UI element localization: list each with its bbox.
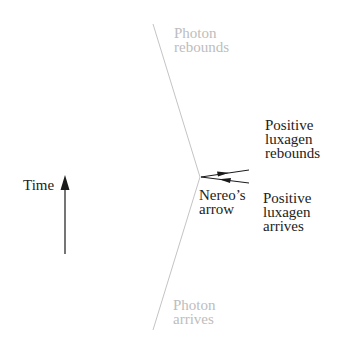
arrive-arrowhead-icon: [219, 178, 231, 183]
rebound-arrowhead-icon: [217, 172, 229, 177]
time-arrowhead-icon: [61, 175, 70, 190]
positive-luxagen-rebounds-label: Positive luxagen rebounds: [265, 118, 320, 160]
photon-arrives-label: Photon arrives: [173, 298, 216, 326]
nereos-arrow-label: Nereo’s arrow: [199, 188, 246, 216]
time-label: Time: [23, 178, 54, 192]
photon-worldline: [153, 24, 200, 330]
positive-luxagen-arrives-label: Positive luxagen arrives: [263, 191, 311, 233]
photon-rebounds-label: Photon rebounds: [174, 26, 229, 54]
